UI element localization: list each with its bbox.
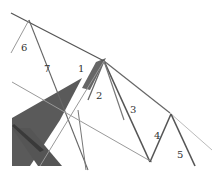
label-1: 1 bbox=[78, 63, 84, 74]
line-diagram: 1 2 3 4 5 6 7 bbox=[0, 0, 224, 172]
top-edge-line-ext bbox=[104, 61, 170, 113]
line-3 bbox=[104, 61, 150, 162]
diagram-canvas: 1 2 3 4 5 6 7 bbox=[0, 0, 224, 172]
label-2: 2 bbox=[96, 90, 102, 101]
label-3: 3 bbox=[130, 104, 136, 115]
label-4: 4 bbox=[154, 130, 160, 141]
top-edge-line bbox=[11, 13, 104, 61]
line-2b bbox=[104, 61, 124, 120]
label-6: 6 bbox=[21, 42, 27, 53]
line-vertical bbox=[78, 110, 86, 170]
top-edge-line-fade bbox=[170, 113, 212, 150]
label-5: 5 bbox=[177, 149, 183, 160]
label-7: 7 bbox=[44, 63, 50, 74]
